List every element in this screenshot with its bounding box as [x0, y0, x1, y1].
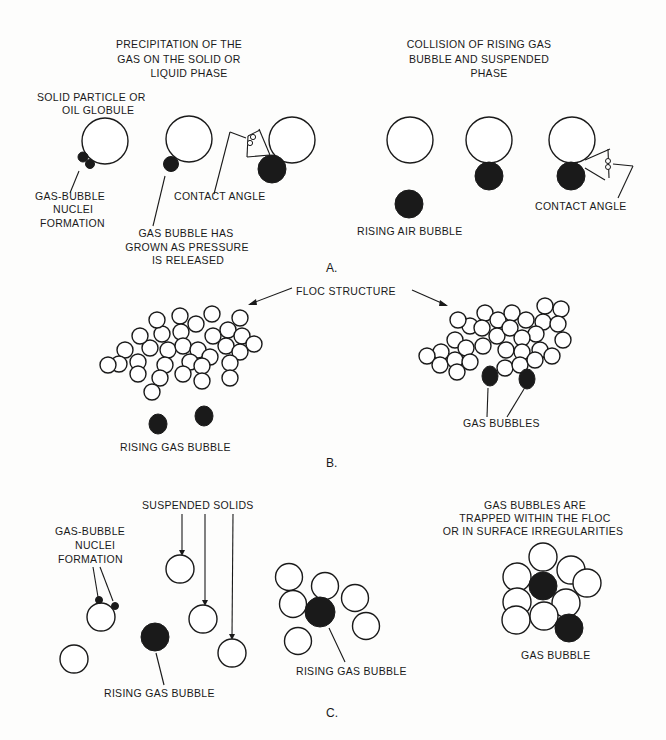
contact-angle-right-label: CONTACT ANGLE	[535, 200, 627, 212]
c-rising-gas-bubble-left-label: RISING GAS BUBBLE	[104, 687, 215, 699]
c-rising-gas-bubble-mid-label: RISING GAS BUBBLE	[296, 665, 407, 677]
floc-cluster-left	[100, 306, 262, 400]
attached-bubble-icon	[557, 162, 585, 190]
trapped-label-line3: OR IN SURFACE IRREGULARITIES	[443, 525, 624, 537]
contact-angle-left-label: CONTACT ANGLE	[174, 190, 266, 202]
panel-c-label: C.	[326, 706, 338, 720]
rising-air-bubble-icon	[395, 190, 423, 218]
panel-a-label: A.	[326, 261, 337, 275]
c-nuclei-label-line2: NUCLEI	[75, 539, 115, 551]
rising-air-bubble-label: RISING AIR BUBBLE	[357, 225, 462, 237]
panel-c: SUSPENDED SOLIDS GAS-BUBBLE NUCLEI FORMA…	[55, 499, 623, 720]
suspended-particle-icon	[466, 117, 512, 163]
suspended-particle-icon	[549, 117, 595, 163]
pointer-line	[93, 567, 98, 597]
panel-a-right-title-line1: COLLISION OF RISING GAS	[407, 38, 552, 50]
rising-gas-bubble-icon	[305, 597, 335, 627]
trapped-gas-bubble-icon	[482, 366, 498, 386]
angle-mark-icon	[250, 134, 255, 139]
angle-mark-icon	[247, 140, 252, 145]
angle-ray	[247, 136, 248, 157]
pointer-line	[214, 132, 230, 194]
pointer-line	[329, 628, 345, 662]
trapped-label-line2: TRAPPED WITHIN THE FLOC	[459, 512, 610, 524]
rising-gas-bubble-icon	[141, 623, 169, 651]
nuclei-label-line1: GAS-BUBBLE	[35, 190, 105, 202]
c-gas-bubble-label: GAS BUBBLE	[521, 649, 591, 661]
pointer-line	[232, 514, 233, 636]
pointer-line	[156, 653, 164, 685]
panel-b-label: B.	[326, 456, 337, 470]
panel-a-right-title-line3: PHASE	[470, 67, 507, 79]
angle-ray	[259, 129, 270, 155]
c-nuclei-label-line3: FORMATION	[58, 553, 123, 565]
gas-bubbles-label: GAS BUBBLES	[463, 417, 540, 429]
trapped-label-line1: GAS BUBBLES ARE	[484, 499, 586, 511]
solid-particle-label-line1: SOLID PARTICLE OR	[37, 91, 146, 103]
gas-bubble-icon	[258, 155, 286, 183]
grown-label-line1: GAS BUBBLE HAS	[138, 227, 233, 239]
pointer-line	[507, 389, 524, 417]
pointer-line	[100, 567, 113, 601]
gas-nucleus-icon	[112, 603, 119, 610]
nuclei-label-line3: FORMATION	[40, 217, 105, 229]
suspended-solid-icon	[166, 555, 194, 583]
grown-label-line3: IS RELEASED	[152, 254, 224, 266]
rising-gas-bubble-label: RISING GAS BUBBLE	[120, 441, 231, 453]
solid-particle-label-line2: OIL GLOBULE	[62, 104, 134, 116]
angle-mark-icon	[606, 165, 611, 170]
flotation-mechanism-diagram: PRECIPITATION OF THE GAS ON THE SOLID OR…	[0, 0, 666, 740]
rising-gas-bubble-icon	[195, 406, 213, 426]
arrowhead-icon	[248, 299, 257, 305]
trapped-gas-bubble-icon	[519, 369, 535, 389]
panel-a-left-title-line2: GAS ON THE SOLID OR	[117, 53, 240, 65]
angle-ray	[585, 168, 605, 180]
trapped-gas-bubble-icon	[555, 614, 583, 642]
gas-bubble-icon	[164, 157, 179, 172]
grown-label-line2: GROWN AS PRESSURE	[125, 241, 249, 253]
pointer-line	[618, 166, 633, 198]
diagram-canvas: PRECIPITATION OF THE GAS ON THE SOLID OR…	[0, 0, 666, 740]
pointer-line	[613, 164, 633, 166]
pointer-line	[487, 388, 488, 417]
gas-nucleus-icon	[86, 160, 95, 169]
suspended-solid-icon	[189, 605, 217, 633]
suspended-solid-icon	[60, 645, 88, 673]
c-nuclei-label-line1: GAS-BUBBLE	[55, 525, 125, 537]
pointer-line	[153, 176, 165, 226]
panel-a-right-title-line2: BUBBLE AND SUSPENDED	[409, 53, 549, 65]
angle-mark-icon	[606, 159, 611, 164]
floc-structure-label: FLOC STRUCTURE	[296, 285, 396, 297]
panel-a: PRECIPITATION OF THE GAS ON THE SOLID OR…	[35, 38, 633, 275]
pointer-line	[230, 132, 246, 138]
solid-particle-icon	[166, 116, 212, 162]
suspended-particle-icon	[387, 117, 433, 163]
arrowhead-icon	[439, 300, 448, 306]
suspended-solid-icon	[87, 603, 115, 631]
attached-bubble-icon	[475, 162, 503, 190]
suspended-solids-label: SUSPENDED SOLIDS	[142, 499, 254, 511]
panel-b: FLOC STRUCTURE	[100, 285, 571, 470]
suspended-solid-icon	[218, 639, 246, 667]
rising-gas-bubble-icon	[149, 414, 167, 434]
solid-particle-icon	[82, 118, 128, 164]
panel-a-left-title-line1: PRECIPITATION OF THE	[116, 38, 242, 50]
panel-a-left-title-line3: LIQUID PHASE	[150, 67, 227, 79]
gas-nucleus-icon	[96, 597, 103, 604]
nuclei-label-line2: NUCLEI	[53, 203, 93, 215]
trapped-gas-bubble-icon	[529, 572, 557, 600]
